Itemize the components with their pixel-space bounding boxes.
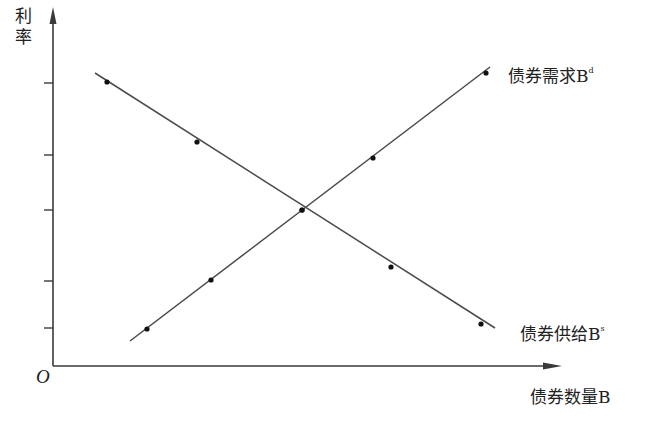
data-point: [370, 155, 375, 160]
data-point: [194, 139, 199, 144]
data-point: [208, 277, 213, 282]
y-axis-arrow-icon: [50, 7, 57, 24]
supply-curve-name: 债券供给B: [520, 324, 601, 344]
data-point: [483, 70, 488, 75]
demand-curve-label: 债券需求Bd: [508, 62, 594, 87]
y-axis-label-char2: 率: [13, 27, 33, 48]
demand-curve-name: 债券需求B: [508, 66, 589, 86]
demand-curve-line: [130, 67, 490, 341]
y-axis-label-char1: 利: [13, 6, 33, 27]
demand-superscript: d: [589, 66, 594, 75]
x-axis-arrow-icon: [543, 363, 562, 370]
data-point: [388, 264, 393, 269]
series-lines: [95, 67, 495, 341]
data-point: [104, 79, 109, 84]
supply-superscript: s: [601, 324, 605, 333]
supply-curve-line: [95, 73, 495, 328]
data-point: [299, 207, 304, 212]
x-axis-label: 债券数量B: [530, 383, 611, 408]
supply-curve-label: 债券供给Bs: [520, 320, 605, 345]
axes: [50, 7, 563, 370]
y-axis-ticks: [44, 83, 53, 328]
data-point: [478, 321, 483, 326]
data-point: [144, 326, 149, 331]
y-axis-label: 利 率: [13, 6, 33, 48]
origin-label: O: [36, 366, 50, 388]
